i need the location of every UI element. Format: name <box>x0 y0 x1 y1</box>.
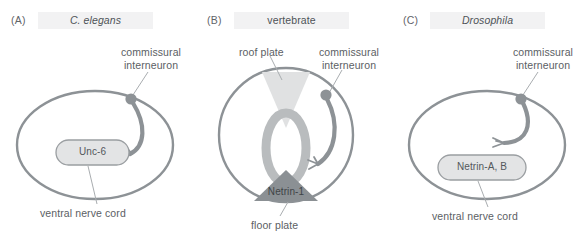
panel-b-vertebrate: (B) vertebrate roof plate <box>196 0 392 251</box>
source-box-label-unc6: Unc-6 <box>56 146 129 157</box>
label-ventral-nerve-cord-c: ventral nerve cord <box>432 210 518 223</box>
figure-netrin-guidance: (A) C. elegans commissural interneuron U… <box>0 0 588 251</box>
growth-cone-icon <box>493 138 504 147</box>
label-commissural-interneuron-a: commissural interneuron <box>110 46 192 71</box>
bottom-leader-line <box>280 202 288 216</box>
label-commissural-interneuron-b: commissural interneuron <box>308 46 390 71</box>
label-ventral-nerve-cord-a: ventral nerve cord <box>40 207 126 220</box>
label-line-2: interneuron <box>308 59 390 72</box>
label-line-1: commissural <box>110 46 192 59</box>
soma-circle <box>125 93 136 104</box>
floor-plate-label-netrin1: Netrin-1 <box>248 186 324 197</box>
soma-circle <box>515 93 526 104</box>
label-commissural-interneuron-c: commissural interneuron <box>502 46 584 71</box>
panel-b-diagram <box>196 0 392 251</box>
label-floor-plate: floor plate <box>251 219 298 232</box>
axon-path <box>130 103 142 154</box>
source-box-label-netrin-ab: Netrin-A, B <box>438 161 526 172</box>
bottom-leader-line <box>478 181 488 207</box>
soma-circle <box>320 89 331 100</box>
panel-c-drosophila: (C) Drosophila commissural interneuron N… <box>392 0 588 251</box>
label-line-2: interneuron <box>110 59 192 72</box>
axon-path <box>504 103 528 143</box>
panel-a-c-elegans: (A) C. elegans commissural interneuron U… <box>0 0 196 251</box>
axon-path <box>318 99 335 164</box>
body-outline-ellipse <box>409 91 565 199</box>
label-line-2: interneuron <box>502 59 584 72</box>
label-line-1: commissural <box>308 46 390 59</box>
label-roof-plate: roof plate <box>239 46 284 59</box>
label-line-1: commissural <box>502 46 584 59</box>
